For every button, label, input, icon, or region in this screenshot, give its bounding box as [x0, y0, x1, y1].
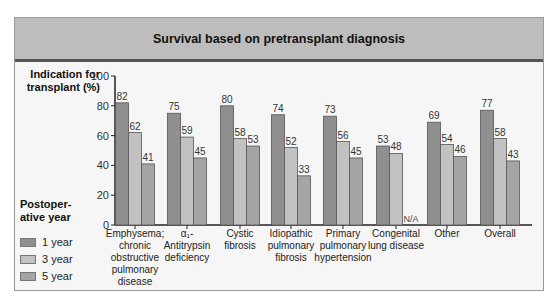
- y-tick-label: 80: [97, 100, 109, 112]
- y-tick-label: 40: [97, 159, 109, 171]
- bar-value-label: 56: [337, 130, 349, 141]
- y-tick-label: 60: [97, 130, 109, 142]
- bar-value-label: 59: [181, 125, 193, 136]
- bar: [377, 146, 390, 225]
- bar: [129, 133, 142, 225]
- bar-value-label: 77: [481, 98, 493, 109]
- bar-value-label: 52: [285, 136, 297, 147]
- bar-value-label: 58: [494, 127, 506, 138]
- bar: [116, 103, 129, 225]
- bar-value-label: 53: [377, 134, 389, 145]
- bar: [221, 106, 234, 225]
- bar: [247, 146, 260, 225]
- bar: [507, 161, 520, 225]
- bar-value-label: 73: [324, 104, 336, 115]
- bar: [441, 145, 454, 225]
- bar: [142, 164, 155, 225]
- y-tick-label: 100: [91, 70, 109, 82]
- bar: [285, 148, 298, 225]
- bar: [494, 139, 507, 225]
- bar: [337, 142, 350, 225]
- na-label: N/A: [404, 214, 419, 224]
- bar-value-label: 74: [272, 103, 284, 114]
- bar-value-label: 48: [390, 141, 402, 152]
- bar: [298, 176, 311, 225]
- bar: [481, 110, 494, 225]
- bar: [234, 139, 247, 225]
- bar: [168, 113, 181, 225]
- y-tick-label: 20: [97, 189, 109, 201]
- bar: [350, 158, 363, 225]
- bar-value-label: 41: [142, 152, 154, 163]
- bar: [194, 158, 207, 225]
- bar: [324, 116, 337, 225]
- bar-value-label: 53: [247, 134, 259, 145]
- bar: [390, 153, 403, 225]
- bar-value-label: 58: [234, 127, 246, 138]
- bar: [181, 137, 194, 225]
- x-tick-label: Overall: [465, 228, 535, 240]
- bar-value-label: 80: [221, 94, 233, 105]
- bar-value-label: 45: [350, 146, 362, 157]
- bar-value-label: 43: [507, 149, 519, 160]
- bar-value-label: 45: [194, 146, 206, 157]
- bar-value-label: 54: [441, 133, 453, 144]
- bar-value-label: 75: [168, 101, 180, 112]
- bar: [428, 122, 441, 225]
- bar-value-label: 46: [454, 144, 466, 155]
- bar: [272, 115, 285, 225]
- bar-value-label: 62: [129, 121, 141, 132]
- bar-value-label: 69: [428, 110, 440, 121]
- bar-value-label: 33: [298, 164, 310, 175]
- bar: [454, 156, 467, 225]
- bar-value-label: 82: [116, 91, 128, 102]
